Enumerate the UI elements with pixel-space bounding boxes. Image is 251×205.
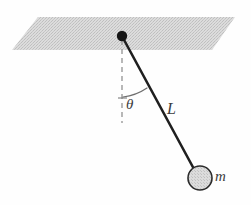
pendulum-diagram: θ L m — [0, 0, 251, 205]
length-label-L: L — [167, 100, 176, 118]
pivot-point — [117, 31, 127, 41]
mass-label-m: m — [215, 168, 226, 185]
angle-label-theta: θ — [126, 96, 133, 113]
pendulum-string — [123, 38, 195, 170]
pendulum-bob — [188, 166, 212, 190]
